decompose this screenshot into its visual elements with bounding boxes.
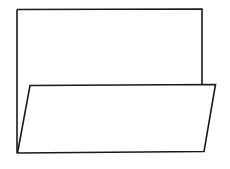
- folder-back-panel: [17, 9, 202, 85]
- folder-icon: [0, 0, 230, 169]
- folder-front-flap: [18, 85, 216, 154]
- folder-drawing: [0, 0, 230, 169]
